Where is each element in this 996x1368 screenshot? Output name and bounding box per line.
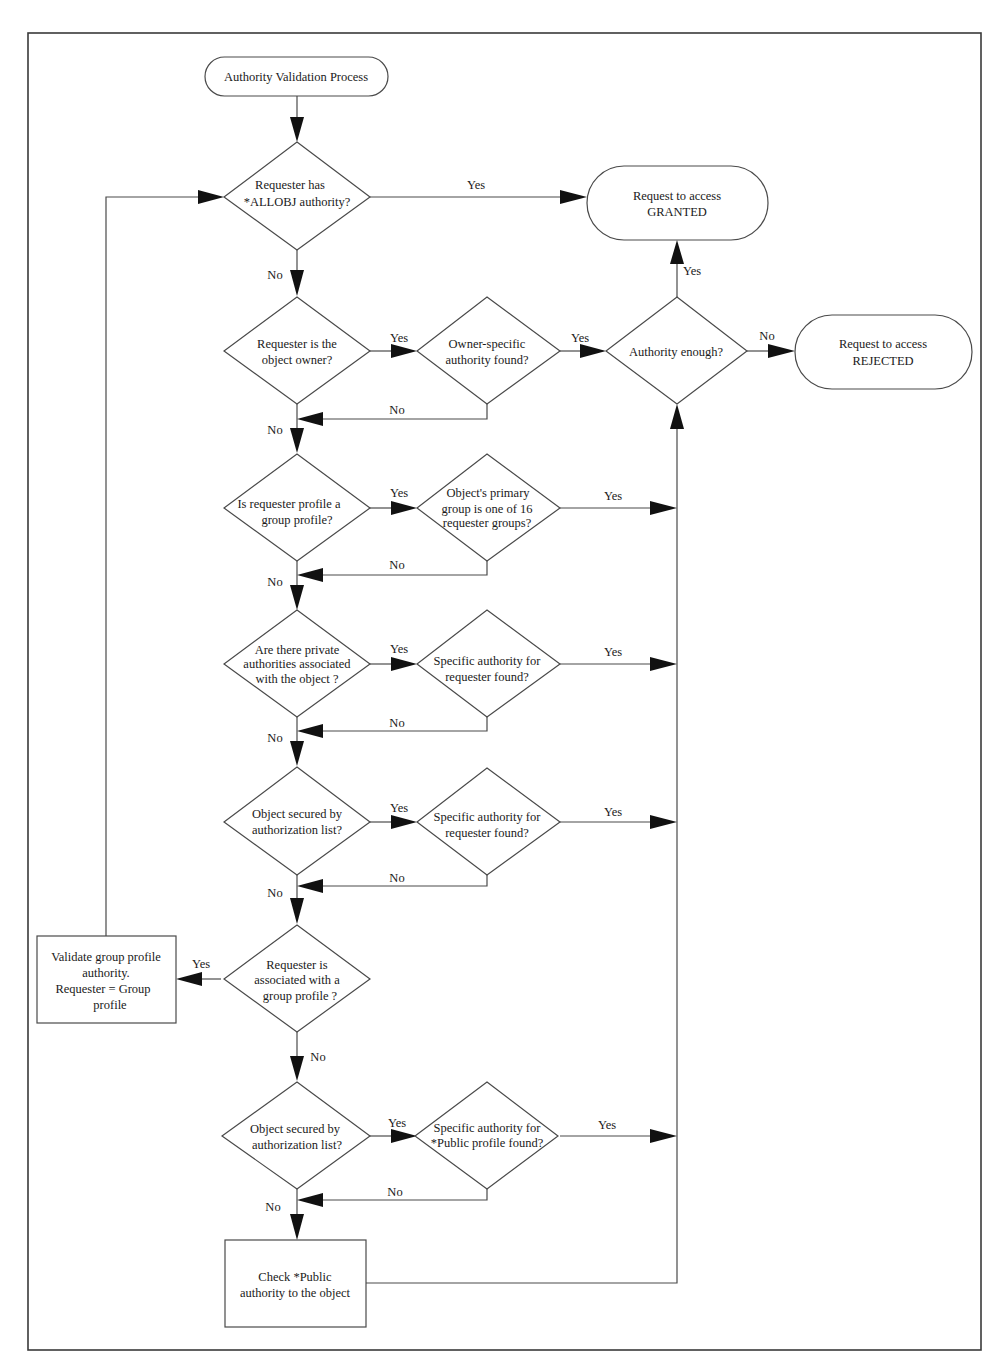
decision-associated-group-profile: Requester is associated with a group pro… [224, 925, 370, 1032]
edge-label-enough-no: No [759, 329, 774, 343]
authority-validation-flowchart: Authority Validation Process Requester h… [0, 0, 996, 1368]
decision-private-line2: authorities associated [243, 657, 351, 671]
decision-private-auth-line1: Specific authority for [434, 654, 542, 668]
granted-line2: GRANTED [647, 205, 707, 219]
decision-private-line3: with the object ? [256, 672, 339, 686]
granted-terminal: Request to access GRANTED [587, 166, 768, 240]
edge-label-private-auth-no: No [389, 716, 404, 730]
decision-owner-line1: Requester is the [257, 337, 337, 351]
edge-label-private-yes: Yes [390, 642, 408, 656]
decision-authlist2-line2: authorization list? [252, 1138, 342, 1152]
edge-label-primary-group-no: No [389, 558, 404, 572]
edge-label-group-profile-yes: Yes [390, 486, 408, 500]
decision-authlist1-line1: Object secured by [252, 807, 343, 821]
decision-owner-specific-authority: Owner-specific authority found? [417, 297, 560, 404]
check-public-line2: authority to the object [240, 1286, 351, 1300]
decision-private-auth-line2: requester found? [445, 670, 529, 684]
edge-label-owner-auth-yes: Yes [571, 331, 589, 345]
edge-label-public-auth-no: No [387, 1185, 402, 1199]
decision-object-owner: Requester is the object owner? [224, 297, 370, 404]
start-label: Authority Validation Process [224, 70, 368, 84]
decision-primary-group-line2: group is one of 16 [442, 502, 533, 516]
decision-authlist1-specific-authority: Specific authority for requester found? [417, 768, 560, 875]
decision-authorization-list-2: Object secured by authorization list? [222, 1082, 370, 1189]
edge-label-authlist2-yes: Yes [388, 1116, 406, 1130]
decision-authorization-list-1: Object secured by authorization list? [224, 767, 370, 875]
decision-public-auth-line1: Specific authority for [434, 1121, 542, 1135]
process-check-public-authority: Check *Public authority to the object [225, 1240, 366, 1327]
decision-enough-label: Authority enough? [629, 345, 724, 359]
edge-label-allobj-no: No [267, 268, 282, 282]
rejected-line1: Request to access [839, 337, 927, 351]
decision-group-profile-line2: group profile? [261, 513, 333, 527]
rejected-line2: REJECTED [852, 354, 913, 368]
decision-owner-auth-line2: authority found? [446, 353, 529, 367]
edge-label-authlist1-auth-yes: Yes [604, 805, 622, 819]
edge-label-owner-no: No [267, 423, 282, 437]
decision-allobj-line1: Requester has [255, 178, 325, 192]
decision-group-profile: Is requester profile a group profile? [224, 454, 370, 561]
edge-label-authlist1-no: No [267, 886, 282, 900]
start-terminal: Authority Validation Process [205, 57, 388, 96]
edge-label-primary-group-yes: Yes [604, 489, 622, 503]
edge-label-private-no: No [267, 731, 282, 745]
decision-assoc-line1: Requester is [266, 958, 328, 972]
validate-line1: Validate group profile [51, 950, 161, 964]
decision-owner-line2: object owner? [262, 353, 333, 367]
edge-label-assoc-yes: Yes [192, 957, 210, 971]
decision-authlist1-auth-line1: Specific authority for [434, 810, 542, 824]
edge-label-allobj-yes: Yes [467, 178, 485, 192]
decision-primary-group-line3: requester groups? [443, 516, 532, 530]
decision-private-authorities: Are there private authorities associated… [224, 610, 370, 717]
edge-label-authlist1-auth-no: No [389, 871, 404, 885]
edge-label-assoc-no: No [310, 1050, 325, 1064]
connectors [106, 96, 770, 1283]
decision-owner-auth-line1: Owner-specific [449, 337, 526, 351]
edge-label-owner-auth-no: No [389, 403, 404, 417]
edge-label-authlist2-no: No [265, 1200, 280, 1214]
decision-public-auth-line2: *Public profile found? [431, 1136, 544, 1150]
decision-authlist2-line1: Object secured by [250, 1122, 341, 1136]
edge-label-private-auth-yes: Yes [604, 645, 622, 659]
decision-private-specific-authority: Specific authority for requester found? [417, 610, 560, 717]
edge-label-owner-yes: Yes [390, 331, 408, 345]
validate-line2: authority. [82, 966, 129, 980]
decision-authority-enough: Authority enough? [606, 297, 747, 404]
process-validate-group-profile: Validate group profile authority. Reques… [37, 936, 176, 1023]
decision-primary-group-line1: Object's primary [446, 486, 530, 500]
edge-label-public-auth-yes: Yes [598, 1118, 616, 1132]
rejected-terminal: Request to access REJECTED [795, 315, 972, 389]
edge-label-enough-yes: Yes [683, 264, 701, 278]
decision-public-specific-authority: Specific authority for *Public profile f… [415, 1082, 558, 1189]
validate-line3: Requester = Group [55, 982, 150, 996]
decision-authlist1-auth-line2: requester found? [445, 826, 529, 840]
edge-label-authlist1-yes: Yes [390, 801, 408, 815]
granted-line1: Request to access [633, 189, 721, 203]
decision-assoc-line3: group profile ? [263, 989, 338, 1003]
edge-label-group-profile-no: No [267, 575, 282, 589]
decision-private-line1: Are there private [255, 643, 340, 657]
decision-primary-group: Object's primary group is one of 16 requ… [417, 454, 560, 561]
decision-allobj-line2: *ALLOBJ authority? [244, 195, 351, 209]
decision-assoc-line2: associated with a [254, 973, 340, 987]
validate-line4: profile [93, 998, 127, 1012]
decision-allobj: Requester has *ALLOBJ authority? [224, 142, 370, 250]
decision-authlist1-line2: authorization list? [252, 823, 342, 837]
check-public-line1: Check *Public [258, 1270, 332, 1284]
decision-group-profile-line1: Is requester profile a [237, 497, 341, 511]
